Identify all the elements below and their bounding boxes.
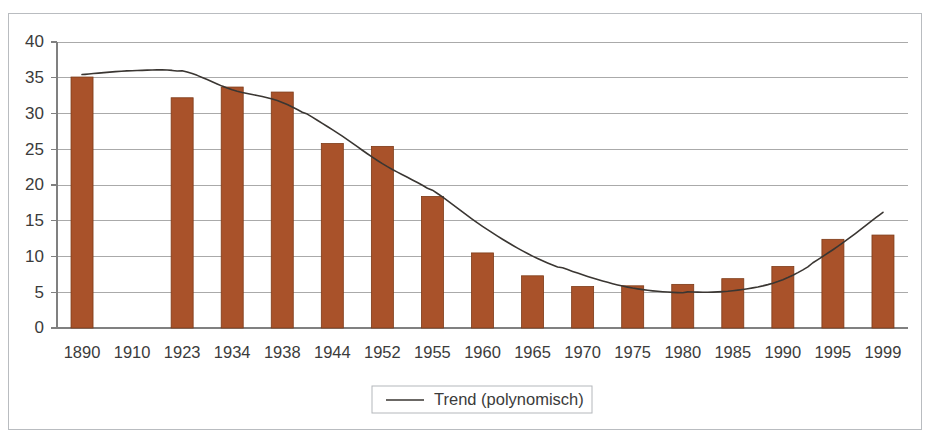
x-axis-tick-label: 1934 — [214, 343, 251, 361]
y-axis-ticks-group — [51, 42, 57, 328]
bar — [421, 196, 443, 328]
x-axis-tick-label: 1960 — [464, 343, 501, 361]
y-axis-tick-label: 20 — [25, 175, 44, 194]
y-axis-tick-label: 40 — [25, 32, 44, 51]
y-axis-tick-label: 35 — [25, 68, 44, 87]
y-axis-labels-group: 0510152025303540 — [25, 32, 44, 337]
x-axis-tick-label: 1990 — [764, 343, 801, 361]
bar — [271, 92, 293, 328]
x-axis-tick-label: 1985 — [714, 343, 751, 361]
bar — [822, 239, 844, 328]
x-axis-labels-group: 1890191019231934193819441952195519601965… — [64, 343, 902, 361]
bar — [71, 77, 93, 328]
bar — [672, 284, 694, 328]
y-axis-tick-label: 15 — [25, 211, 44, 230]
y-axis-tick-label: 25 — [25, 140, 44, 159]
x-axis-tick-label: 1890 — [64, 343, 101, 361]
x-axis-tick-label: 1944 — [314, 343, 351, 361]
bar — [872, 235, 894, 328]
y-axis-tick-label: 10 — [25, 247, 44, 266]
x-axis-tick-label: 1999 — [865, 343, 902, 361]
y-axis-tick-label: 0 — [35, 318, 44, 337]
x-axis-tick-label: 1938 — [264, 343, 301, 361]
chart-canvas: 0510152025303540 18901910192319341938194… — [0, 0, 931, 445]
x-axis-tick-label: 1952 — [364, 343, 401, 361]
y-axis-tick-label: 30 — [25, 104, 44, 123]
bar — [472, 253, 494, 328]
chart-screenshot: 0510152025303540 18901910192319341938194… — [0, 0, 931, 445]
bar — [722, 279, 744, 328]
bar — [371, 146, 393, 328]
x-axis-tick-label: 1910 — [114, 343, 151, 361]
bar — [622, 286, 644, 328]
bar — [522, 276, 544, 328]
x-axis-tick-label: 1970 — [564, 343, 601, 361]
bar — [221, 87, 243, 328]
x-axis-tick-label: 1995 — [815, 343, 852, 361]
x-axis-tick-label: 1965 — [514, 343, 551, 361]
x-axis-tick-label: 1955 — [414, 343, 451, 361]
x-axis-tick-label: 1980 — [664, 343, 701, 361]
legend-label-trend: Trend (polynomisch) — [434, 390, 584, 408]
x-axis-tick-label: 1975 — [614, 343, 651, 361]
y-axis-tick-label: 5 — [35, 283, 44, 302]
chart-area: 0510152025303540 18901910192319341938194… — [0, 0, 931, 445]
x-axis-tick-label: 1923 — [164, 343, 201, 361]
bar — [171, 98, 193, 328]
bar — [321, 144, 343, 328]
bar — [572, 287, 594, 328]
legend-group: Trend (polynomisch) — [372, 386, 592, 413]
bars-group — [71, 77, 894, 328]
